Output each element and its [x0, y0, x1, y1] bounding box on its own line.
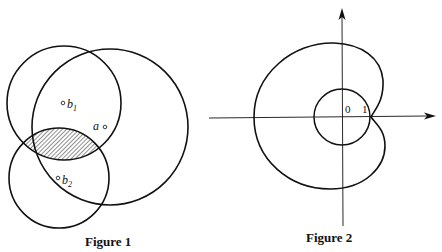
- figure-1-caption: Figure 1: [85, 234, 131, 250]
- point-a: [103, 125, 107, 129]
- y-axis: [342, 16, 343, 226]
- origin-label: 0: [345, 103, 351, 115]
- figures-canvas: b1 a b2 0 1: [0, 0, 442, 252]
- label-b2: b2: [62, 173, 72, 189]
- figure-1-diagram: b1 a b2: [7, 46, 188, 228]
- figure-2-caption: Figure 2: [306, 230, 352, 246]
- unit-label: 1: [362, 103, 368, 115]
- label-a: a: [93, 119, 99, 133]
- point-b2: [56, 176, 60, 180]
- circle-a: [32, 49, 188, 205]
- cardioid-curve: [254, 43, 385, 189]
- x-axis: [209, 116, 428, 118]
- point-b1: [61, 101, 65, 105]
- figure-2-diagram: 0 1: [209, 8, 436, 226]
- label-b1: b1: [67, 97, 77, 113]
